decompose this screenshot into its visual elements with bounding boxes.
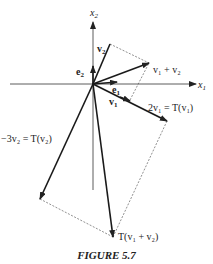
dashed-construction-lines [40,44,167,237]
label-2v1: 2v₁ = T(v₁) [148,102,193,114]
label-v2: v2 [97,43,106,56]
label-minus-3v2: −3v₂ = T(v₂) [1,133,52,145]
figure-caption: FIGURE 5.7 [0,249,213,261]
label-v1: v1 [109,96,118,109]
label-v1-plus-v2: v₁ + v₂ [153,64,181,75]
linear-transformation-diagram: x1 x2 e2 v2 e1 v1 v₁ + v₂ 2v₁ = T(v₁) −3… [0,0,213,264]
x1-axis-label: x1 [197,79,206,92]
label-e2: e2 [76,66,84,79]
label-T-v1-plus-v2: T(v₁ + v₂) [118,231,158,243]
x2-axis-label: x2 [89,7,98,20]
